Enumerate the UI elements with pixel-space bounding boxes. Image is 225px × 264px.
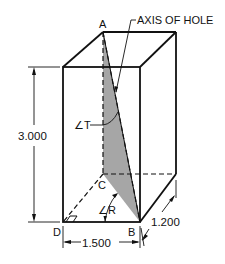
block-diagram: AXIS OF HOLE A C D B ∠T ∠R 3.000 1.500 1 xyxy=(0,0,225,264)
width-arrow-right xyxy=(132,240,140,244)
angle-r-label: ∠R xyxy=(98,204,116,216)
width-value: 1.500 xyxy=(82,237,111,249)
point-d-label: D xyxy=(53,226,61,238)
height-value: 3.000 xyxy=(18,130,47,142)
angle-t-label: ∠T xyxy=(74,119,91,131)
width-arrow-left xyxy=(63,240,71,244)
point-c-label: C xyxy=(98,179,106,191)
point-b-label: B xyxy=(128,226,135,238)
axis-of-hole-label: AXIS OF HOLE xyxy=(137,14,213,26)
height-arrow-top xyxy=(32,67,36,75)
angle-r-arrow-top xyxy=(112,193,118,198)
axis-leader xyxy=(116,20,136,92)
diagram-canvas: AXIS OF HOLE A C D B ∠T ∠R 3.000 1.500 1 xyxy=(0,0,225,264)
height-arrow-bottom xyxy=(32,214,36,222)
depth-value: 1.200 xyxy=(151,216,180,228)
height-dimension xyxy=(28,67,60,222)
point-a-label: A xyxy=(99,18,107,30)
